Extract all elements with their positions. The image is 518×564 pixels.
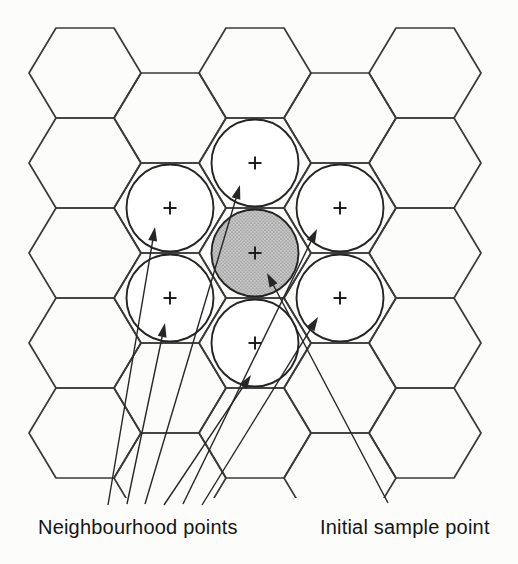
hexagon-cell [114, 73, 226, 163]
neighbour-circle-lower-right [297, 255, 384, 342]
neighbour-circle-top [212, 120, 299, 207]
hexagon-cell [29, 118, 141, 208]
hexagon-cell [284, 343, 396, 433]
hexagon-cell [369, 28, 481, 118]
hexagon-cell [29, 298, 141, 388]
hexagon-cell [29, 208, 141, 298]
figure-canvas: Neighbourhood points Initial sample poin… [0, 0, 518, 564]
hexagon-cell [29, 28, 141, 118]
hexagon-cell [369, 388, 481, 478]
arrow-neighbour-lower-left [127, 323, 167, 504]
hexagon-cell [199, 388, 311, 478]
hexagon-cell [369, 118, 481, 208]
initial-sample-circle [212, 210, 299, 297]
hexagon-cell [284, 73, 396, 163]
neighbourhood-points-label: Neighbourhood points [38, 516, 238, 539]
hexagon-cell [114, 433, 226, 523]
neighbour-circle-lower-left [127, 255, 214, 342]
hexagon-cell [369, 208, 481, 298]
hex-sampling-diagram [0, 0, 518, 564]
neighbour-circle-bottom [212, 300, 299, 387]
initial-sample-point-label: Initial sample point [320, 516, 490, 539]
hexagon-cell [29, 388, 141, 478]
hexagon-cell [284, 433, 396, 523]
hexagon-cell [199, 28, 311, 118]
neighbour-circle-upper-left [127, 165, 214, 252]
hexagon-cell [369, 298, 481, 388]
